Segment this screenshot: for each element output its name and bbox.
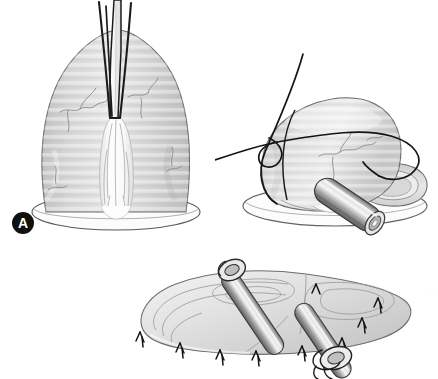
panel-c: C bbox=[110, 250, 438, 379]
panel-a-illustration bbox=[0, 0, 230, 250]
suture-stitch bbox=[136, 332, 144, 347]
panel-c-illustration bbox=[110, 250, 438, 379]
panel-b: B bbox=[215, 48, 438, 258]
edge-watermark: · · · · bbox=[423, 292, 437, 348]
figure-root: A bbox=[0, 0, 438, 379]
panel-b-illustration bbox=[215, 48, 438, 258]
panel-label-a: A bbox=[12, 212, 34, 234]
panel-a: A bbox=[0, 0, 230, 250]
